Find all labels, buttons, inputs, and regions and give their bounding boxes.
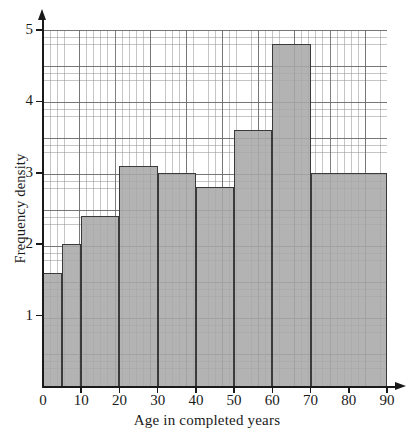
plot-area: [43, 30, 387, 387]
x-axis-arrow-icon: [395, 382, 406, 390]
histogram-bar: [119, 166, 157, 387]
histogram-bar: [158, 173, 196, 387]
y-axis-title: Frequency density: [12, 109, 29, 309]
histogram-bar: [62, 244, 81, 387]
histogram-bar: [43, 273, 62, 387]
x-tick-label: 10: [64, 392, 98, 408]
y-tick-label: 5: [11, 22, 33, 37]
y-axis-arrow-icon: [38, 9, 46, 20]
x-tick-label: 50: [217, 392, 251, 408]
x-tick-label: 80: [332, 392, 366, 408]
x-tick-label: 30: [141, 392, 175, 408]
x-tick-label: 40: [179, 392, 213, 408]
y-tick-mark: [36, 172, 43, 174]
histogram-bar: [272, 44, 310, 387]
x-tick-label: 0: [26, 392, 60, 408]
x-tick-label: 20: [102, 392, 136, 408]
bars-layer: [43, 30, 387, 387]
y-tick-mark: [36, 315, 43, 317]
x-axis-line: [43, 386, 398, 388]
y-tick-mark: [36, 29, 43, 31]
y-tick-mark: [36, 243, 43, 245]
y-tick-mark: [36, 101, 43, 103]
histogram-bar: [234, 130, 272, 387]
x-tick-label: 90: [370, 392, 404, 408]
histogram-bar: [196, 187, 234, 387]
y-axis-line: [42, 18, 44, 388]
x-tick-label: 60: [255, 392, 289, 408]
y-tick-label: 1: [11, 308, 33, 323]
x-tick-label: 70: [294, 392, 328, 408]
histogram-bar: [81, 216, 119, 387]
histogram-chart: 12345 0102030405060708090 Age in complet…: [0, 0, 414, 435]
y-tick-label: 4: [11, 93, 33, 108]
x-axis-title: Age in completed years: [0, 412, 414, 429]
histogram-bar: [311, 173, 387, 387]
